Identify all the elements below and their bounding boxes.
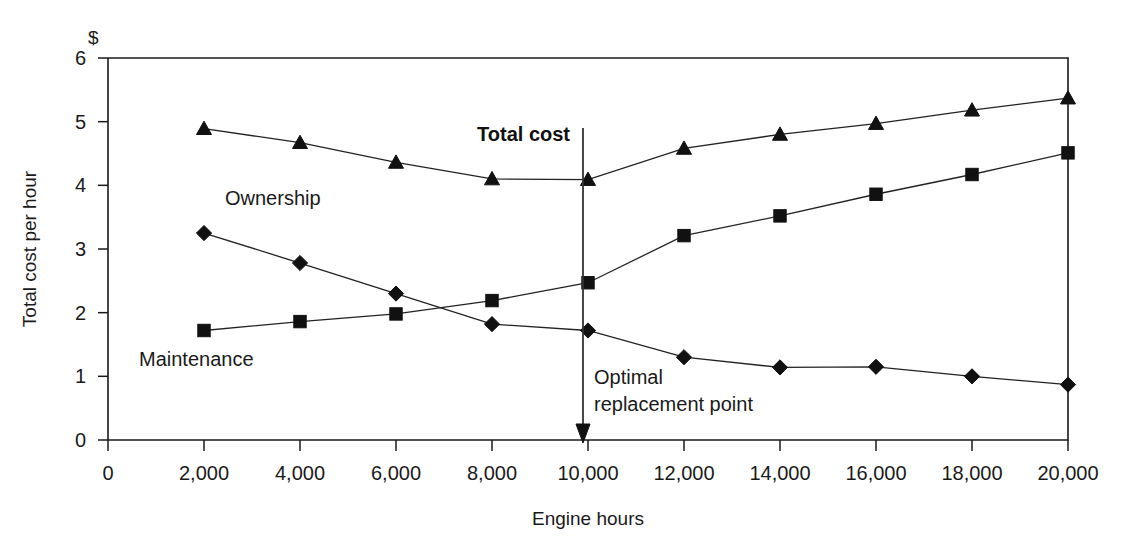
annotation-optimal-line1: Optimal — [594, 366, 663, 388]
y-axis-tick-labels: 0123456 — [75, 47, 86, 451]
data-point-marker — [484, 317, 499, 332]
x-tick-label: 10,000 — [557, 462, 618, 484]
line-chart: 0123456 02,0004,0006,0008,00010,00012,00… — [0, 0, 1140, 543]
data-point-marker — [678, 229, 690, 241]
y-tick-label: 6 — [75, 47, 86, 69]
data-point-marker — [774, 210, 786, 222]
data-point-marker — [1060, 377, 1075, 392]
data-point-marker — [390, 308, 402, 320]
y-tick-label: 2 — [75, 302, 86, 324]
data-point-marker — [292, 255, 307, 270]
data-point-marker — [196, 225, 211, 240]
x-axis-ticks — [108, 440, 1068, 451]
series-total-cost — [197, 91, 1076, 186]
series-label-maintenance: Maintenance — [139, 348, 254, 370]
x-tick-label: 2,000 — [179, 462, 229, 484]
data-point-marker — [772, 360, 787, 375]
data-point-marker — [486, 294, 498, 306]
y-tick-label: 3 — [75, 238, 86, 260]
data-point-marker — [1061, 91, 1076, 104]
y-tick-label: 0 — [75, 429, 86, 451]
x-tick-label: 18,000 — [941, 462, 1002, 484]
data-point-marker — [868, 359, 883, 374]
x-tick-label: 4,000 — [275, 462, 325, 484]
y-tick-label: 1 — [75, 365, 86, 387]
plot-frame — [108, 58, 1068, 440]
data-point-marker — [676, 350, 691, 365]
annotation-optimal-line2: replacement point — [594, 393, 753, 415]
y-tick-label: 4 — [75, 174, 86, 196]
data-point-marker — [1062, 147, 1074, 159]
data-point-marker — [197, 121, 212, 134]
currency-unit-label: $ — [88, 27, 99, 48]
series-line — [204, 98, 1068, 179]
x-tick-label: 8,000 — [467, 462, 517, 484]
series-maintenance — [198, 147, 1074, 337]
y-tick-label: 5 — [75, 111, 86, 133]
annotation-total-cost: Total cost — [477, 123, 570, 145]
x-tick-label: 14,000 — [749, 462, 810, 484]
series-line — [204, 153, 1068, 331]
x-tick-label: 12,000 — [653, 462, 714, 484]
data-point-marker — [198, 324, 210, 336]
data-point-marker — [966, 168, 978, 180]
data-point-marker — [388, 286, 403, 301]
data-series-group — [196, 91, 1075, 393]
data-point-marker — [964, 369, 979, 384]
data-point-marker — [870, 188, 882, 200]
chart-container: 0123456 02,0004,0006,0008,00010,00012,00… — [0, 0, 1140, 543]
x-tick-label: 6,000 — [371, 462, 421, 484]
x-tick-label: 20,000 — [1037, 462, 1098, 484]
series-line — [204, 233, 1068, 385]
x-axis-title: Engine hours — [532, 508, 644, 529]
series-label-ownership: Ownership — [225, 187, 321, 209]
x-axis-tick-labels: 02,0004,0006,0008,00010,00012,00014,0001… — [102, 462, 1098, 484]
x-tick-label: 16,000 — [845, 462, 906, 484]
x-tick-label: 0 — [102, 462, 113, 484]
y-axis-title: Total cost per hour — [19, 170, 40, 327]
y-axis-ticks — [98, 58, 108, 440]
data-point-marker — [294, 315, 306, 327]
